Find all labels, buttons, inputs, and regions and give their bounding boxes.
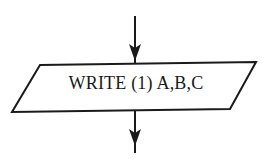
flowchart-canvas: WRITE (1) A,B,C — [0, 0, 272, 159]
node-label: WRITE (1) A,B,C — [0, 72, 272, 94]
outgoing-arrow — [129, 111, 141, 153]
incoming-arrow — [129, 16, 141, 63]
